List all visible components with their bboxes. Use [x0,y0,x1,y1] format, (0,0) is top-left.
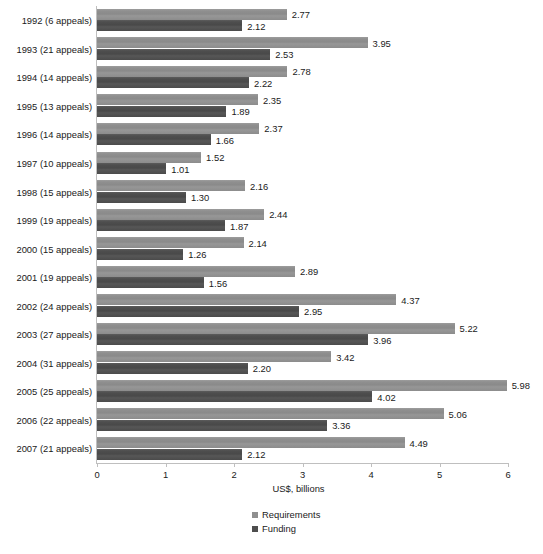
bar-funding[interactable]: 1.56 [97,277,204,288]
bar-requirements[interactable]: 2.77 [97,9,287,20]
chart-category-row: 1999 (19 appeals)2.441.87 [0,206,543,235]
category-label: 2000 (15 appeals) [16,243,92,254]
bar-group: 2.772.12 [97,6,543,35]
category-label: 1995 (13 appeals) [16,100,92,111]
bar-value-label: 4.02 [376,391,396,402]
chart-plot-area: 1992 (6 appeals)2.772.121993 (21 appeals… [0,6,543,463]
chart-category-row: 1992 (6 appeals)2.772.12 [0,6,543,35]
legend-swatch-icon [252,512,258,518]
bar-group: 2.441.87 [97,206,543,235]
x-axis-tick-label: 0 [94,469,99,480]
chart-category-row: 2001 (19 appeals)2.891.56 [0,263,543,292]
bar-value-label: 2.20 [252,363,272,374]
bar-requirements[interactable]: 5.22 [97,323,455,334]
bar-group: 5.984.02 [97,377,543,406]
category-label: 1992 (6 appeals) [22,15,92,26]
bar-requirements[interactable]: 2.14 [97,237,244,248]
bar-funding[interactable]: 1.26 [97,249,183,260]
chart-category-row: 1996 (14 appeals)2.371.66 [0,120,543,149]
x-axis-tick-label: 1 [163,469,168,480]
bar-value-label: 1.89 [230,106,250,117]
bar-requirements[interactable]: 4.37 [97,294,396,305]
category-label: 2002 (24 appeals) [16,300,92,311]
bar-requirements[interactable]: 2.44 [97,209,264,220]
chart-category-row: 1995 (13 appeals)2.351.89 [0,92,543,121]
bar-funding[interactable]: 2.95 [97,306,299,317]
chart-category-row: 1997 (10 appeals)1.521.01 [0,149,543,178]
bar-funding[interactable]: 2.12 [97,20,242,31]
bar-group: 5.063.36 [97,406,543,435]
category-label: 1993 (21 appeals) [16,43,92,54]
bar-value-label: 5.98 [511,380,531,391]
x-axis-tick-mark [508,463,509,467]
bar-value-label: 2.14 [248,237,268,248]
bar-requirements[interactable]: 5.06 [97,408,444,419]
category-label: 1997 (10 appeals) [16,158,92,169]
category-label: 2007 (21 appeals) [16,443,92,454]
bar-funding[interactable]: 1.89 [97,106,226,117]
bar-group: 2.371.66 [97,120,543,149]
chart-legend: RequirementsFunding [0,508,543,536]
x-axis-tick-label: 2 [231,469,236,480]
bar-requirements[interactable]: 1.52 [97,152,201,163]
chart-category-row: 2007 (21 appeals)4.492.12 [0,434,543,463]
chart-category-row: 2004 (31 appeals)3.422.20 [0,349,543,378]
bar-requirements[interactable]: 2.16 [97,180,245,191]
x-axis-tick-label: 4 [368,469,373,480]
bar-chart: 1992 (6 appeals)2.772.121993 (21 appeals… [0,0,543,554]
legend-swatch-icon [252,526,258,532]
bar-requirements[interactable]: 3.95 [97,37,368,48]
bar-value-label: 5.06 [448,408,468,419]
bar-value-label: 1.52 [205,152,225,163]
bar-group: 2.141.26 [97,234,543,263]
legend-label: Requirements [262,508,320,522]
bar-group: 2.161.30 [97,177,543,206]
bar-funding[interactable]: 1.30 [97,192,186,203]
bar-value-label: 2.16 [249,180,269,191]
bar-funding[interactable]: 2.22 [97,77,249,88]
bar-value-label: 3.96 [372,334,392,345]
category-label: 2001 (19 appeals) [16,272,92,283]
bar-value-label: 2.53 [274,49,294,60]
x-axis-tick-mark [371,463,372,467]
x-axis-tick-mark [166,463,167,467]
bar-funding[interactable]: 1.66 [97,134,211,145]
bar-group: 2.351.89 [97,92,543,121]
x-axis-tick-label: 3 [300,469,305,480]
bar-requirements[interactable]: 2.78 [97,66,287,77]
bar-value-label: 2.44 [268,209,288,220]
category-label: 1998 (15 appeals) [16,186,92,197]
bar-value-label: 1.56 [208,277,228,288]
bar-requirements[interactable]: 2.35 [97,94,258,105]
bar-requirements[interactable]: 2.37 [97,123,259,134]
bar-group: 3.952.53 [97,35,543,64]
bar-funding[interactable]: 2.53 [97,49,270,60]
bar-funding[interactable]: 2.20 [97,363,248,374]
bar-value-label: 2.95 [303,306,323,317]
bar-group: 4.372.95 [97,291,543,320]
chart-category-row: 1998 (15 appeals)2.161.30 [0,177,543,206]
bar-requirements[interactable]: 5.98 [97,380,507,391]
bar-funding[interactable]: 4.02 [97,391,372,402]
bar-requirements[interactable]: 2.89 [97,266,295,277]
legend-item-funding[interactable]: Funding [252,522,296,536]
bar-requirements[interactable]: 4.49 [97,437,405,448]
bar-value-label: 1.26 [187,249,207,260]
bar-value-label: 1.87 [229,220,249,231]
bar-funding[interactable]: 1.01 [97,163,166,174]
x-axis-tick-mark [97,463,98,467]
bar-funding[interactable]: 3.96 [97,334,368,345]
bar-value-label: 1.01 [170,163,190,174]
legend-item-requirements[interactable]: Requirements [252,508,320,522]
x-axis-tick-mark [303,463,304,467]
bar-value-label: 2.35 [262,94,282,105]
bar-funding[interactable]: 2.12 [97,449,242,460]
bar-funding[interactable]: 3.36 [97,420,327,431]
bar-requirements[interactable]: 3.42 [97,351,331,362]
x-axis-ticks: 0123456 [0,463,543,483]
bar-funding[interactable]: 1.87 [97,220,225,231]
chart-category-row: 1993 (21 appeals)3.952.53 [0,35,543,64]
bar-value-label: 3.36 [331,420,351,431]
bar-group: 2.782.22 [97,63,543,92]
category-label: 1999 (19 appeals) [16,215,92,226]
